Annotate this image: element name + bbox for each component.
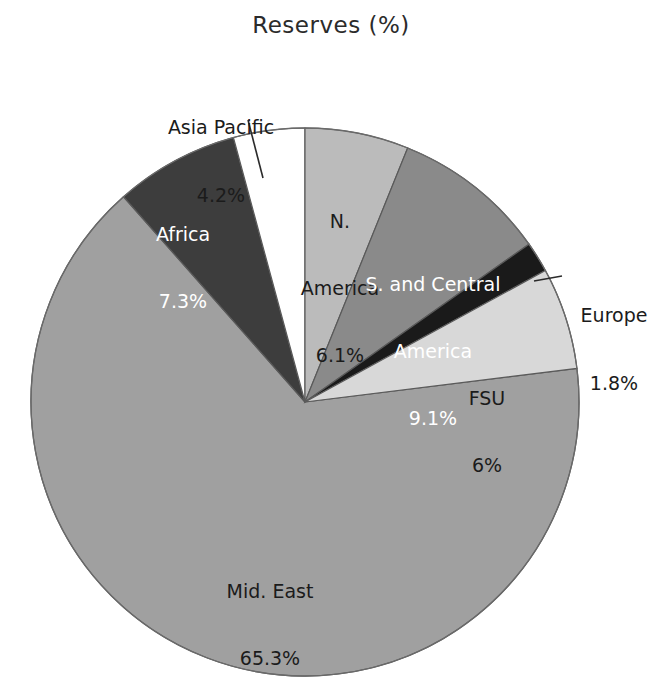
- slice-label-europe-name: Europe: [566, 304, 662, 327]
- slice-label-europe-value: 1.8%: [566, 372, 662, 395]
- pie-canvas: [0, 0, 662, 689]
- slice-label-asia-pacific: Asia Pacific 4.2%: [126, 70, 316, 252]
- pie-chart: Reserves (%) Asia Pacific 4.2% Europe 1: [0, 0, 662, 689]
- slice-label-asia-pacific-value: 4.2%: [126, 184, 316, 207]
- slice-label-asia-pacific-name: Asia Pacific: [126, 116, 316, 139]
- slice-label-europe: Europe 1.8%: [566, 258, 662, 440]
